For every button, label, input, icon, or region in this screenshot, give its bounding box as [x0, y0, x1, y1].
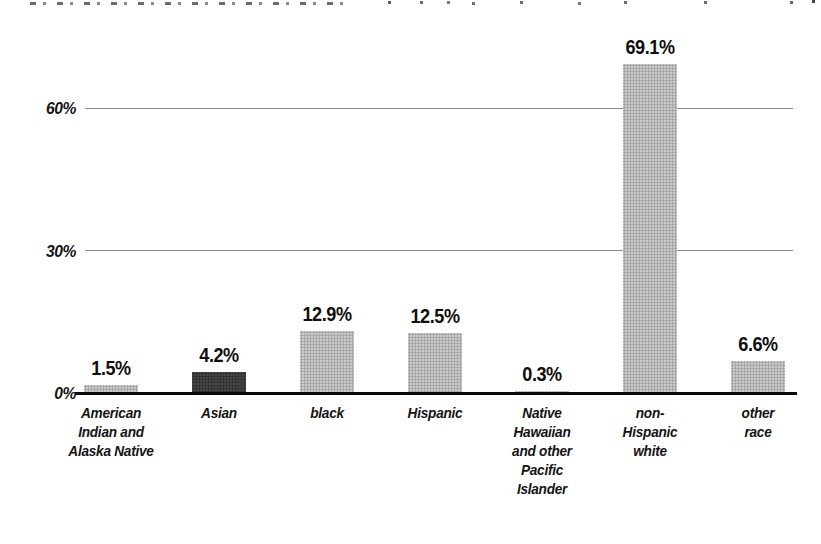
- bar-value-label: 4.2%: [199, 344, 238, 365]
- category-label: non- Hispanic white: [593, 403, 707, 460]
- bar-column: 1.5%American Indian and Alaska Native: [57, 0, 165, 393]
- bar-column: 6.6%other race: [704, 0, 812, 393]
- bar-column: 12.9%black: [273, 0, 381, 393]
- bar-6: [623, 64, 677, 392]
- bar-5: [515, 391, 569, 392]
- bar-column: 0.3%Native Hawaiian and other Pacific Is…: [488, 0, 596, 393]
- category-label: Hispanic: [377, 403, 491, 422]
- bar-value-label: 6.6%: [738, 333, 777, 354]
- bar-value-label: 0.3%: [523, 363, 562, 384]
- bar-value-label: 12.9%: [302, 303, 351, 324]
- category-label: Asian: [162, 403, 276, 422]
- bar-7: [731, 361, 785, 392]
- bar-2: [192, 372, 246, 392]
- bar-column: 69.1%non- Hispanic white: [596, 0, 704, 393]
- bar-chart: 0%30%60%1.5%American Indian and Alaska N…: [0, 0, 821, 544]
- category-label: other race: [701, 403, 815, 441]
- bar-1: [84, 385, 138, 392]
- category-label: black: [269, 403, 383, 422]
- category-label: Native Hawaiian and other Pacific Island…: [485, 403, 599, 498]
- category-label: American Indian and Alaska Native: [54, 403, 168, 460]
- bar-column: 4.2%Asian: [165, 0, 273, 393]
- bar-columns: 1.5%American Indian and Alaska Native4.2…: [57, 0, 812, 393]
- figure: 0%30%60%1.5%American Indian and Alaska N…: [0, 0, 821, 544]
- bar-value-label: 69.1%: [626, 36, 675, 57]
- bar-4: [408, 333, 462, 392]
- bar-column: 12.5%Hispanic: [381, 0, 489, 393]
- bar-3: [300, 331, 354, 392]
- bar-value-label: 1.5%: [91, 357, 130, 378]
- bar-value-label: 12.5%: [410, 305, 459, 326]
